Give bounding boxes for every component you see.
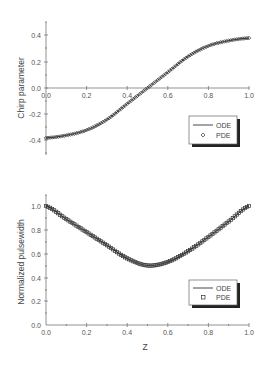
top-ytick-1: 0.2 [31, 59, 41, 66]
top-legend-pde: PDE [216, 132, 231, 139]
bottom-ytick-5: 0.0 [31, 322, 41, 329]
bottom-ode-line [46, 206, 249, 266]
bottom-xtick-3: 0.6 [163, 329, 173, 336]
bottom-xtick-5: 1.0 [244, 329, 254, 336]
bottom-plot: 1.0 0.8 0.6 0.4 0.2 0.0 0.0 0.2 0.4 0.6 … [16, 195, 254, 352]
bottom-xtick-4: 0.8 [204, 329, 214, 336]
bottom-xlabel: Z [142, 342, 147, 352]
bottom-legend-pde: PDE [216, 294, 231, 301]
top-xtick-3: 0.6 [163, 92, 173, 99]
bottom-xtick-1: 0.2 [82, 329, 92, 336]
bottom-legend: ODE PDE [189, 280, 240, 308]
bottom-xtick-0: 0.0 [41, 329, 51, 336]
bottom-ytick-2: 0.6 [31, 251, 41, 258]
top-ytick-3: -0.2 [29, 111, 41, 118]
top-ytick-4: -0.4 [29, 137, 41, 144]
top-xtick-2: 0.4 [122, 92, 132, 99]
top-legend: ODE PDE [189, 116, 240, 147]
bottom-ytick-1: 0.8 [31, 227, 41, 234]
bottom-ytick-0: 1.0 [31, 203, 41, 210]
bottom-pde-markers [44, 204, 250, 267]
top-ytick-0: 0.4 [31, 32, 41, 39]
top-xtick-1: 0.2 [82, 92, 92, 99]
bottom-legend-ode: ODE [216, 285, 232, 292]
bottom-ylabel: Normalized pulsewidth [16, 219, 26, 305]
top-legend-ode: ODE [216, 122, 232, 129]
top-xtick-4: 0.8 [204, 92, 214, 99]
figure: 0.4 0.2 0.0 -0.2 -0.4 0.0 0.2 0.4 0.6 0.… [0, 0, 268, 369]
top-xtick-0: 0.0 [41, 92, 51, 99]
bottom-ytick-4: 0.2 [31, 298, 41, 305]
top-ylabel: Chirp parameter [16, 57, 26, 119]
bottom-xtick-2: 0.4 [122, 329, 132, 336]
bottom-ytick-3: 0.4 [31, 275, 41, 282]
top-xtick-5: 1.0 [244, 92, 254, 99]
top-plot: 0.4 0.2 0.0 -0.2 -0.4 0.0 0.2 0.4 0.6 0.… [16, 22, 254, 155]
top-ytick-2: 0.0 [31, 85, 41, 92]
